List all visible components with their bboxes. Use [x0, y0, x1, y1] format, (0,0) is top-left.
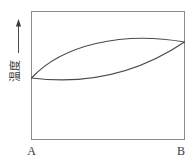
- figure-background: [0, 0, 196, 162]
- x-axis-start-label: A: [27, 144, 36, 158]
- figure-container: 温度 A B: [0, 0, 196, 162]
- y-axis-label: 温度: [8, 60, 21, 82]
- x-axis-end-label: B: [177, 144, 185, 158]
- temperature-diagram: 温度 A B: [0, 0, 196, 162]
